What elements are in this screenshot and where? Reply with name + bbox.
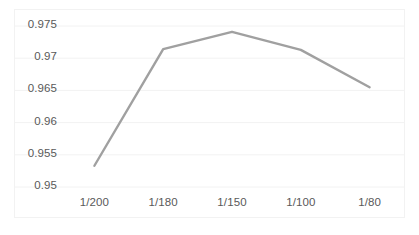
x-axis-tick-label: 1/180 [133, 196, 193, 208]
gridlines-group [15, 26, 404, 187]
y-axis-tick-label: 0.975 [5, 18, 57, 30]
y-axis-tick-label: 0.96 [5, 115, 57, 127]
data-series-group [94, 32, 369, 166]
y-axis-tick-label: 0.97 [5, 50, 57, 62]
x-axis-tick-label: 1/150 [202, 196, 262, 208]
series-line [94, 32, 369, 166]
y-axis-tick-label: 0.955 [5, 147, 57, 159]
x-axis-tick-label: 1/100 [271, 196, 331, 208]
y-axis-tick-label: 0.95 [5, 179, 57, 191]
y-axis-tick-label: 0.965 [5, 82, 57, 94]
x-axis-tick-label: 1/200 [64, 196, 124, 208]
x-axis-tick-label: 1/80 [340, 196, 400, 208]
